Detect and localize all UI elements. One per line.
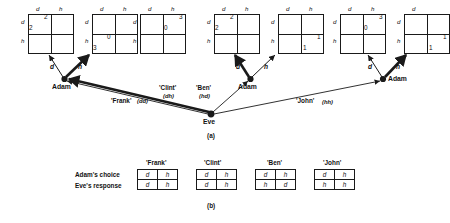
table-row: d h: [197, 170, 237, 180]
strategy-label-ben: 'Ben': [196, 85, 211, 91]
table-row: d h: [138, 170, 178, 180]
branch-label-adam-far-h: h: [396, 64, 400, 71]
table-row: d h: [138, 180, 178, 190]
cell-clint-eve-0: d: [197, 180, 217, 190]
node-label-adam-right: Adam: [238, 84, 257, 91]
cell-ben-adam-1: h: [276, 170, 296, 180]
cell-frank-adam-0: d: [138, 170, 158, 180]
cell-ben-eve-1: d: [276, 180, 296, 190]
matrix-2-payoff-right: 0: [107, 34, 111, 40]
strategy-label-clint: 'Clint': [159, 85, 176, 91]
table-header-ben: 'Ben': [267, 160, 282, 166]
matrix-4-row-d: d: [271, 19, 274, 25]
matrix-3-row-d: d: [207, 19, 210, 25]
matrix-7-payoff-right: 1: [443, 34, 447, 40]
strategy-code-clint: (dh): [163, 94, 174, 100]
matrix-1-payoff-right: 2: [44, 14, 48, 20]
matrix-4-payoff-right: 1: [317, 34, 321, 40]
matrix-7-row-h: h: [397, 38, 400, 44]
matrix-4-payoff-left: 1: [303, 45, 307, 51]
strategy-code-john: (hh): [322, 100, 333, 106]
matrix-3-col-h: h: [245, 6, 248, 12]
table-row: h h: [315, 180, 355, 190]
matrix-1-col-h: h: [59, 6, 62, 12]
branch-label-adam-far-d: d: [368, 64, 372, 71]
cell-john-adam-0: d: [315, 170, 335, 180]
payoff-matrix-2: [92, 14, 138, 54]
payoff-matrix-3: [214, 14, 260, 54]
branch-label-adam-left-h: h: [78, 64, 82, 71]
table-row-label-adam: Adam's choice: [75, 172, 120, 178]
matrix-3-payoff-right: 2: [230, 14, 234, 20]
matrix-7-row-d: d: [397, 19, 400, 25]
strategy-label-john: 'John': [296, 98, 314, 104]
node-dot-adam-far-right: [380, 76, 386, 82]
table-row: d h: [256, 170, 296, 180]
matrix-6-row-h: h: [333, 38, 336, 44]
cell-ben-eve-0: h: [256, 180, 276, 190]
matrix-7-col-d: d: [412, 6, 415, 12]
matrix-6-payoff-left: 0: [364, 25, 368, 31]
strategy-table-clint: d h d h: [196, 169, 237, 190]
payoff-matrix-1: [28, 14, 74, 54]
table-header-frank: 'Frank': [146, 160, 166, 166]
cell-john-eve-1: h: [335, 180, 355, 190]
strategy-table-ben: d h h d: [255, 169, 296, 190]
matrix-2-col-d: d: [100, 6, 103, 12]
cell-clint-eve-1: h: [217, 180, 237, 190]
node-dot-eve: [208, 111, 215, 118]
matrix-1-row-h: h: [21, 38, 24, 44]
node-label-adam-far-right: Adam: [388, 76, 407, 83]
matrix-3-payoff-left: 2: [215, 25, 219, 31]
node-dot-adam-left: [61, 76, 67, 82]
matrix-1-payoff-left: 2: [29, 25, 33, 31]
cell-clint-adam-0: d: [197, 170, 217, 180]
table-header-john: 'John': [323, 160, 341, 166]
matrix-2-row-h: h: [85, 38, 88, 44]
caption-a: (a): [207, 133, 215, 139]
table-row-label-eve: Eve's response: [75, 183, 122, 189]
cell-clint-adam-1: h: [217, 170, 237, 180]
matrix-6-row-d: d: [333, 19, 336, 25]
matrix-5-payoff-right: 3: [179, 14, 183, 20]
matrix-2-col-h: h: [123, 6, 126, 12]
table-row: h d: [256, 180, 296, 190]
strategy-code-frank: (dd): [137, 99, 148, 105]
matrix-5-row-h: h: [133, 38, 136, 44]
caption-b: (b): [207, 203, 215, 209]
matrix-6-col-d: d: [348, 6, 351, 12]
matrix-5-col-h: h: [171, 6, 174, 12]
strategy-table-john: d h h h: [314, 169, 355, 190]
matrix-4-col-h: h: [309, 6, 312, 12]
matrix-3-row-h: h: [207, 38, 210, 44]
cell-john-adam-1: h: [335, 170, 355, 180]
table-row: d h: [315, 170, 355, 180]
matrix-5-col-d: d: [148, 6, 151, 12]
matrix-2-payoff-left: 3: [93, 45, 97, 51]
cell-frank-adam-1: h: [158, 170, 178, 180]
cell-ben-adam-0: d: [256, 170, 276, 180]
matrix-1-row-d: d: [21, 19, 24, 25]
cell-frank-eve-0: d: [138, 180, 158, 190]
node-label-adam-left: Adam: [52, 84, 71, 91]
table-row: d h: [197, 180, 237, 190]
cell-frank-eve-1: h: [158, 180, 178, 190]
strategy-table-frank: d h d h: [137, 169, 178, 190]
matrix-7-payoff-left: 1: [429, 45, 433, 51]
node-label-eve: Eve: [203, 119, 215, 126]
strategy-code-ben: (hd): [199, 94, 210, 100]
matrix-2-row-d: d: [85, 19, 88, 25]
matrix-6-payoff-right: 3: [379, 14, 383, 20]
branch-label-adam-right-d: d: [236, 64, 240, 71]
edge-eve-clint: [69, 79, 209, 112]
strategy-label-frank: 'Frank': [111, 98, 131, 104]
branch-label-adam-left-d: d: [50, 64, 54, 71]
matrix-5-payoff-left: 0: [164, 25, 168, 31]
matrix-5-row-d: d: [133, 19, 136, 25]
matrix-4-row-h: h: [271, 38, 274, 44]
matrix-1-col-d: d: [36, 6, 39, 12]
matrix-6-col-h: h: [371, 6, 374, 12]
matrix-3-col-d: d: [222, 6, 225, 12]
cell-john-eve-0: h: [315, 180, 335, 190]
